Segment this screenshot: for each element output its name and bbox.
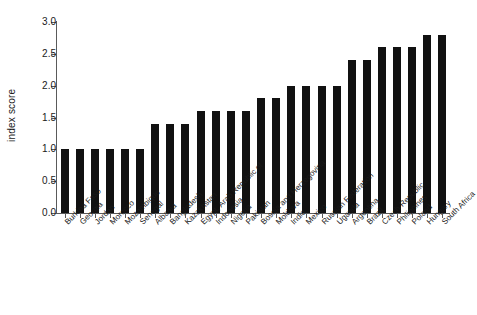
x-axis-tick <box>382 214 383 218</box>
x-axis-tick <box>155 214 156 218</box>
x-axis-tick <box>246 214 247 218</box>
x-axis-tick <box>306 214 307 218</box>
x-axis-tick <box>261 214 262 218</box>
x-axis-tick <box>276 214 277 218</box>
x-axis-tick <box>337 214 338 218</box>
x-axis-tick <box>140 214 141 218</box>
x-axis-tick <box>216 214 217 218</box>
x-axis-tick <box>201 214 202 218</box>
x-axis-tick <box>231 214 232 218</box>
x-axis-tick <box>442 214 443 218</box>
x-axis-tick <box>291 214 292 218</box>
x-axis-tick <box>65 214 66 218</box>
x-axis-tick <box>185 214 186 218</box>
x-axis-tick <box>125 214 126 218</box>
x-axis-tick <box>352 214 353 218</box>
x-axis-tick <box>170 214 171 218</box>
x-axis-tick <box>95 214 96 218</box>
x-axis-tick <box>397 214 398 218</box>
x-axis-tick <box>412 214 413 218</box>
x-axis-tick <box>322 214 323 218</box>
x-axis-tick <box>80 214 81 218</box>
x-axis-tick <box>367 214 368 218</box>
x-axis-tick <box>427 214 428 218</box>
x-axis-tick <box>110 214 111 218</box>
